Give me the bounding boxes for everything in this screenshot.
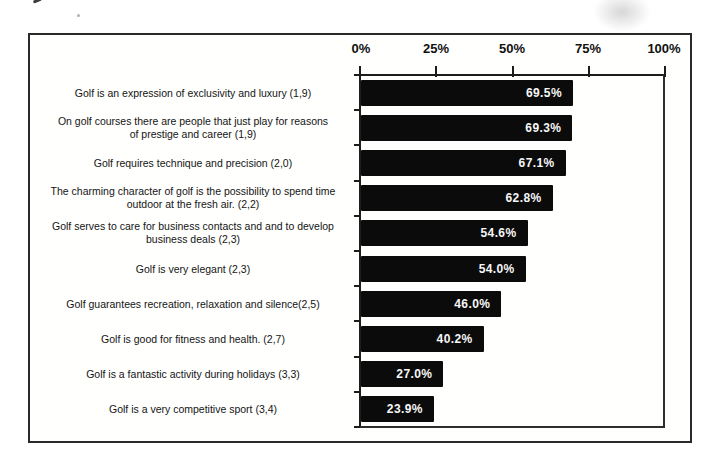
x-axis-tick-label: 75% — [575, 41, 601, 56]
plot-area: 0% 25% 50% 75% 100% 69.5%69.3%67.1%62.8%… — [30, 35, 690, 441]
category-label: Golf requires technique and precision (2… — [32, 157, 354, 170]
scan-artifact-mark — [33, 0, 42, 4]
bar: 46.0% — [361, 291, 501, 317]
bar: 54.0% — [361, 256, 526, 282]
bar: 69.5% — [361, 80, 573, 106]
category-axis-tick — [354, 144, 360, 146]
bar-value-label: 23.9% — [387, 396, 423, 422]
bar-value-label: 69.5% — [526, 80, 562, 106]
category-label: Golf serves to care for business contact… — [32, 220, 354, 246]
category-axis-tick — [354, 109, 360, 111]
category-label: Golf guarantees recreation, relaxation a… — [32, 297, 354, 310]
bar-value-label: 54.0% — [479, 256, 515, 282]
category-label: Golf is a very competitive sport (3,4) — [32, 403, 354, 416]
scan-artifact-smudge — [593, 0, 651, 32]
scan-artifact-dot — [77, 14, 80, 17]
x-axis-tick-label: 50% — [499, 41, 525, 56]
bar-value-label: 27.0% — [396, 361, 432, 387]
bar: 54.6% — [361, 220, 528, 246]
category-axis-tick — [354, 74, 360, 76]
category-axis-tick — [354, 180, 360, 182]
category-label: The charming character of golf is the po… — [32, 185, 354, 211]
category-label: Golf is very elegant (2,3) — [32, 262, 354, 275]
category-axis-tick — [354, 215, 360, 217]
plot-bottom-border — [359, 426, 665, 428]
category-axis-tick — [354, 320, 360, 322]
category-axis-tick — [354, 250, 360, 252]
bar: 27.0% — [361, 361, 443, 387]
x-axis-tick — [435, 66, 437, 77]
bar-value-label: 40.2% — [437, 326, 473, 352]
bar-value-label: 67.1% — [519, 150, 555, 176]
chart-frame: 0% 25% 50% 75% 100% 69.5%69.3%67.1%62.8%… — [28, 33, 692, 443]
bar-value-label: 46.0% — [454, 291, 490, 317]
bar: 40.2% — [361, 326, 484, 352]
bar-value-label: 54.6% — [480, 220, 516, 246]
bar: 69.3% — [361, 115, 572, 141]
x-axis-tick-label: 25% — [423, 41, 449, 56]
x-axis-tick-label: 100% — [647, 41, 680, 56]
bar: 62.8% — [361, 185, 553, 211]
category-axis-tick — [354, 285, 360, 287]
bar-value-label: 69.3% — [525, 115, 561, 141]
x-axis-tick — [512, 66, 514, 77]
x-axis-tick — [588, 66, 590, 77]
x-axis-tick — [664, 66, 666, 77]
category-axis-tick — [354, 426, 360, 428]
bar-value-label: 62.8% — [506, 185, 542, 211]
category-axis-tick — [354, 391, 360, 393]
category-label: Golf is an expression of exclusivity and… — [32, 86, 354, 99]
category-label: Golf is a fantastic activity during holi… — [32, 368, 354, 381]
bar: 67.1% — [361, 150, 566, 176]
category-label: Golf is good for fitness and health. (2,… — [32, 333, 354, 346]
x-axis-tick-label: 0% — [352, 41, 371, 56]
category-label: On golf courses there are people that ju… — [32, 115, 354, 141]
category-axis-tick — [354, 356, 360, 358]
bar: 23.9% — [361, 396, 434, 422]
plot-right-border — [663, 74, 665, 428]
